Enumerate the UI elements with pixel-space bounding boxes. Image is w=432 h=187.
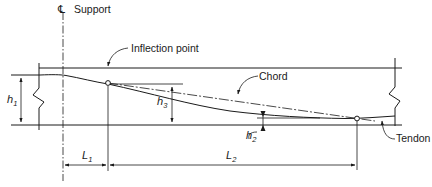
h1-label: h1 — [7, 93, 17, 108]
chord-leader — [238, 76, 258, 94]
h2-arrow-bottom — [261, 125, 266, 131]
chord-label: Chord — [259, 70, 288, 82]
chord-line — [108, 83, 375, 121]
tendon-leader — [382, 121, 395, 139]
support-label: Support — [74, 3, 111, 15]
inflection-point-marker — [106, 81, 111, 86]
tendon-curve — [40, 75, 395, 119]
h2-label: h2 — [246, 129, 257, 144]
l1-label: L1 — [82, 149, 92, 164]
tendon-profile-diagram: ℄ Support h1 h3 h2 L1 L2 — [0, 0, 432, 187]
tendon-label: Tendon — [396, 132, 431, 144]
l2-label: L2 — [226, 149, 237, 164]
h3-label: h3 — [157, 95, 168, 110]
centerline-symbol: ℄ — [57, 3, 65, 15]
low-point-marker — [355, 116, 360, 121]
inflection-point-label: Inflection point — [131, 42, 199, 54]
inflection-point-leader — [108, 48, 128, 66]
left-break-line — [33, 63, 44, 130]
